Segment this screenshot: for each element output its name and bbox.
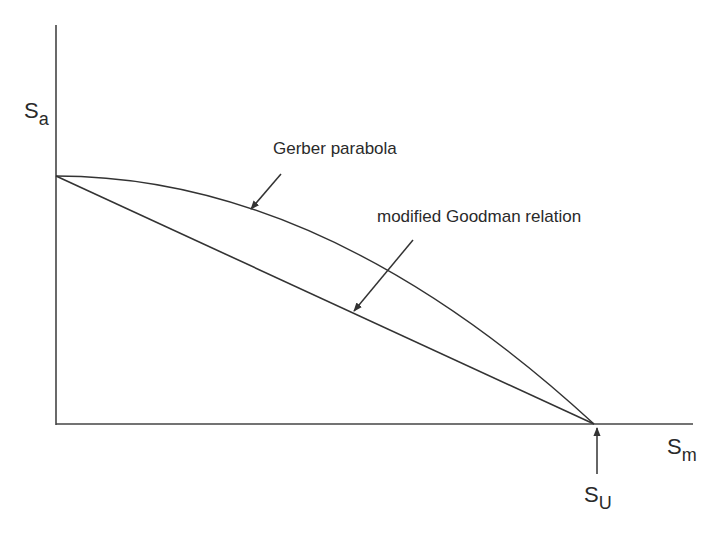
su-label: SU [584, 482, 612, 513]
fatigue-diagram: Sa Sm SU Gerber parabola modified Goodma… [0, 0, 722, 534]
gerber-arrow-icon [251, 174, 281, 209]
goodman-arrow-icon [354, 240, 413, 311]
y-axis-label: Sa [24, 98, 50, 129]
goodman-annotation: modified Goodman relation [377, 207, 581, 226]
gerber-annotation: Gerber parabola [273, 139, 397, 158]
x-axis-label: Sm [667, 434, 697, 465]
